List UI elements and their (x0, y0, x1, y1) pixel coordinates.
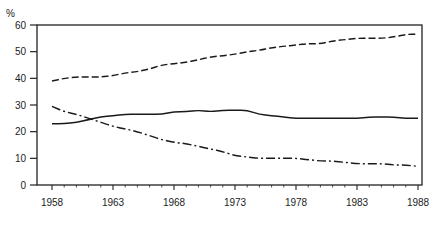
y-tick-label: 20 (15, 126, 27, 137)
y-tick-label: 50 (15, 46, 27, 57)
x-tick-label: 1983 (346, 197, 369, 208)
line-chart: % 0102030405060 195819631968197319781983… (0, 0, 440, 229)
y-tick-label: 30 (15, 100, 27, 111)
y-tick-label: 0 (20, 180, 26, 191)
x-tick-label: 1963 (102, 197, 125, 208)
plot-frame (37, 25, 422, 185)
series-line-dashdot (52, 106, 418, 166)
x-tick-label: 1968 (163, 197, 186, 208)
x-axis: 1958196319681973197819831988 (41, 185, 430, 208)
x-tick-label: 1978 (285, 197, 308, 208)
series-line-dashed (52, 34, 418, 81)
x-tick-label: 1973 (224, 197, 247, 208)
x-tick-label: 1958 (41, 197, 64, 208)
series-line-solid (52, 110, 418, 123)
y-axis-unit-label: % (6, 8, 15, 19)
series-group (52, 34, 418, 166)
y-axis: 0102030405060 (15, 20, 37, 191)
y-tick-label: 60 (15, 20, 27, 31)
y-tick-label: 40 (15, 73, 27, 84)
y-tick-label: 10 (15, 153, 27, 164)
x-tick-label: 1988 (407, 197, 430, 208)
